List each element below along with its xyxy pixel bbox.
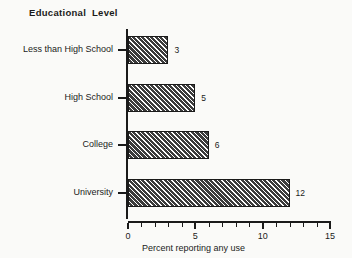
bar-less-than-high-school	[128, 36, 168, 64]
y-axis-tick	[118, 49, 126, 51]
chart-title: Educational Level	[29, 7, 118, 18]
bar-value-label: 6	[215, 140, 220, 150]
x-axis-tick-major	[329, 223, 331, 229]
x-axis-tick-major	[194, 223, 196, 229]
x-axis-tick-minor	[222, 223, 223, 227]
x-axis-line	[128, 221, 331, 223]
y-axis-label-university: University	[73, 187, 113, 198]
x-axis-tick-minor	[290, 223, 291, 227]
x-axis-tick-major	[262, 223, 264, 229]
y-axis-label-wrap: High School	[0, 92, 113, 103]
y-axis-tick	[118, 192, 126, 194]
x-axis-tick-minor	[249, 223, 250, 227]
y-axis-label-college: College	[82, 139, 113, 150]
bar-value-label: 5	[201, 93, 206, 103]
y-axis-label-wrap: Less than High School	[0, 44, 113, 55]
x-axis-tick-minor	[276, 223, 277, 227]
x-axis-tick-minor	[182, 223, 183, 227]
y-axis-tick	[118, 144, 126, 146]
x-axis-tick-minor	[141, 223, 142, 227]
y-axis-label-high-school: High School	[64, 92, 113, 103]
bar-value-label: 12	[296, 188, 305, 198]
x-axis-tick-label: 15	[325, 231, 335, 241]
y-axis-label-less-than-high-school: Less than High School	[23, 44, 113, 55]
y-axis-tick	[118, 97, 126, 99]
x-axis-tick-minor	[236, 223, 237, 227]
x-axis-tick-label: 0	[125, 231, 130, 241]
bar-value-label: 3	[174, 45, 179, 55]
x-axis-tick-label: 10	[258, 231, 268, 241]
x-axis-tick-minor	[155, 223, 156, 227]
x-axis-tick-major	[127, 223, 129, 229]
y-axis-label-wrap: College	[0, 139, 113, 150]
x-axis-tick-minor	[209, 223, 210, 227]
y-axis-label-wrap: University	[0, 187, 113, 198]
bar-college	[128, 131, 209, 159]
x-axis-tick-label: 5	[193, 231, 198, 241]
bar-university	[128, 179, 290, 207]
x-axis-title: Percent reporting any use	[0, 243, 352, 253]
bar-high-school	[128, 84, 195, 112]
x-axis-tick-minor	[317, 223, 318, 227]
x-axis-tick-minor	[168, 223, 169, 227]
chart-canvas: Educational Level 35612 Less than High S…	[0, 0, 352, 258]
x-axis-tick-minor	[303, 223, 304, 227]
